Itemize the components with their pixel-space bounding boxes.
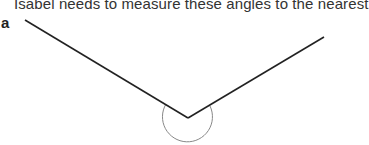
ray-left xyxy=(25,20,188,118)
ray-right xyxy=(188,37,324,118)
reflex-angle-arc xyxy=(162,104,212,142)
